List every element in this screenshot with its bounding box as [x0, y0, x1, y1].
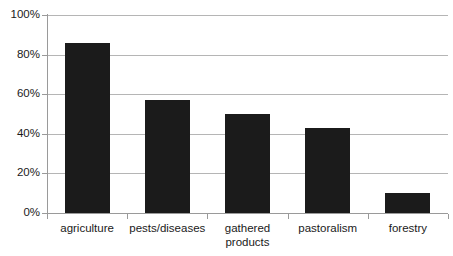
x-axis-label-line: products	[207, 235, 287, 249]
x-axis-tick-mark	[127, 214, 128, 219]
y-axis-tick-label: 20%	[0, 167, 40, 179]
x-axis-labels: agriculture pests/diseases gathered prod…	[47, 221, 448, 256]
x-axis-label-pests-diseases: pests/diseases	[127, 221, 207, 235]
bar-pests-diseases	[145, 100, 190, 213]
x-axis-label-line: pests/diseases	[129, 222, 205, 234]
x-axis-tick-mark	[207, 214, 208, 219]
x-axis-label-forestry: forestry	[368, 221, 448, 235]
x-axis-tick-mark	[448, 214, 449, 219]
bar-chart: 100% 80% 60% 40% 20% 0% agriculture	[0, 0, 453, 256]
bar-gathered-products	[225, 114, 270, 213]
y-axis-tick-label: 100%	[0, 9, 40, 21]
y-axis-labels: 100% 80% 60% 40% 20% 0%	[0, 0, 40, 256]
x-axis-label-agriculture: agriculture	[47, 221, 127, 235]
x-axis-label-line: agriculture	[60, 222, 114, 234]
x-axis-line	[47, 213, 448, 214]
bars-layer	[47, 15, 448, 213]
y-axis-tick-label: 40%	[0, 128, 40, 140]
x-axis-label-gathered-products: gathered products	[207, 221, 287, 249]
bar-forestry	[385, 193, 430, 213]
y-axis-tick-label: 60%	[0, 88, 40, 100]
y-axis-tick-label: 0%	[0, 207, 40, 219]
x-axis-tick-mark	[368, 214, 369, 219]
x-axis-label-line: forestry	[389, 222, 427, 234]
bar-agriculture	[65, 43, 110, 213]
y-axis-tick-label: 80%	[0, 49, 40, 61]
bar-pastoralism	[305, 128, 350, 213]
x-axis-label-line: gathered	[225, 222, 270, 234]
x-axis-label-pastoralism: pastoralism	[288, 221, 368, 235]
x-axis-tick-mark	[47, 214, 48, 219]
x-axis-label-line: pastoralism	[298, 222, 357, 234]
x-axis-tick-mark	[288, 214, 289, 219]
